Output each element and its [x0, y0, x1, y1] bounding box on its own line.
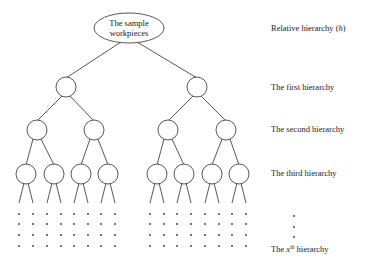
continuation-dot: [245, 234, 247, 236]
continuation-dot: [114, 234, 116, 236]
tree-edge: [98, 139, 108, 165]
continuation-dot: [100, 234, 102, 236]
continuation-dot: [190, 245, 192, 247]
third-hierarchy-node: [174, 164, 194, 184]
continuation-dot: [60, 245, 62, 247]
root-node: The sample workpieces: [94, 13, 164, 43]
continuation-dot: [204, 213, 206, 215]
label-third-hierarchy: The third hierarchy: [271, 168, 337, 178]
tree-edge: [168, 96, 193, 121]
continuation-dot: [73, 234, 75, 236]
continuation-dot: [60, 213, 62, 215]
continuation-dot: [87, 245, 89, 247]
label-first-hierarchy: The first hierarchy: [271, 82, 335, 92]
continuation-dot: [163, 213, 165, 215]
leaf-edge: [83, 183, 88, 203]
tree-edge: [137, 42, 197, 78]
continuation-dot: [100, 223, 102, 225]
second-hierarchy-node: [84, 120, 104, 140]
continuation-dot: [32, 234, 34, 236]
leaf-edge: [28, 183, 33, 203]
continuation-dot: [204, 223, 206, 225]
leaf-edge: [110, 183, 115, 203]
continuation-dot: [73, 213, 75, 215]
continuation-dot: [18, 245, 20, 247]
continuation-dot: [204, 245, 206, 247]
label-xth-hierarchy: The xth hierarchy: [271, 244, 329, 255]
continuation-dot: [114, 245, 116, 247]
continuation-dot: [149, 223, 151, 225]
continuation-dot: [46, 223, 48, 225]
tree-edge: [172, 139, 184, 165]
leaf-edge: [159, 183, 164, 203]
leaf-edge: [232, 183, 237, 203]
third-hierarchy-node: [98, 164, 118, 184]
continuation-dot: [231, 234, 233, 236]
continuation-dot: [218, 223, 220, 225]
leaf-edge: [47, 183, 52, 203]
tree-edge: [201, 96, 226, 121]
continuation-dot: [60, 234, 62, 236]
continuation-dot: [87, 234, 89, 236]
tree-nodes: [16, 77, 249, 184]
leaf-edge: [205, 183, 210, 203]
first-hierarchy-node: [56, 77, 76, 97]
root-label-line2: workpieces: [110, 28, 149, 38]
continuation-dot: [87, 223, 89, 225]
continuation-dot: [149, 213, 151, 215]
continuation-dot: [231, 223, 233, 225]
continuation-dot: [231, 213, 233, 215]
continuation-dot: [32, 245, 34, 247]
leaf-edge: [101, 183, 106, 203]
hierarchy-diagram: The sample workpieces Relative hierarchy…: [0, 0, 365, 262]
continuation-dot: [231, 245, 233, 247]
tree-edges: [26, 42, 239, 165]
tree-edge: [230, 139, 239, 165]
continuation-dot: [149, 234, 151, 236]
continuation-dot: [245, 223, 247, 225]
root-label-line1: The sample: [109, 18, 149, 28]
continuation-dot: [46, 234, 48, 236]
continuation-dot: [73, 223, 75, 225]
tree-edge: [66, 42, 121, 78]
continuation-dot: [46, 213, 48, 215]
continuation-dot: [114, 223, 116, 225]
continuation-dots: [18, 213, 247, 247]
continuation-dot: [218, 213, 220, 215]
continuation-dot: [163, 234, 165, 236]
tree-edge: [157, 139, 164, 165]
continuation-dot: [87, 213, 89, 215]
continuation-dot: [18, 213, 20, 215]
second-hierarchy-node: [158, 120, 178, 140]
second-hierarchy-node: [216, 120, 236, 140]
tree-edge: [26, 139, 33, 165]
continuation-dot: [190, 213, 192, 215]
label-relative-hierarchy: Relative hierarchy (h): [271, 23, 346, 33]
continuation-dot: [218, 245, 220, 247]
tree-edge: [212, 139, 222, 165]
continuation-dot: [176, 234, 178, 236]
tree-edge: [81, 139, 90, 165]
continuation-dot: [46, 245, 48, 247]
leaf-edge: [56, 183, 61, 203]
leaf-edge: [74, 183, 79, 203]
leaf-edge: [177, 183, 182, 203]
continuation-dot: [100, 245, 102, 247]
third-hierarchy-node: [202, 164, 222, 184]
continuation-dot: [218, 234, 220, 236]
continuation-dot: [60, 223, 62, 225]
third-hierarchy-node: [16, 164, 36, 184]
second-hierarchy-node: [27, 120, 47, 140]
label-second-hierarchy: The second hierarchy: [271, 124, 345, 134]
third-hierarchy-node: [147, 164, 167, 184]
continuation-dot: [176, 245, 178, 247]
continuation-dot: [190, 223, 192, 225]
continuation-dot: [190, 234, 192, 236]
vertical-ellipsis-dot: [293, 226, 295, 228]
continuation-dot: [100, 213, 102, 215]
continuation-dot: [18, 223, 20, 225]
leaf-edge: [214, 183, 219, 203]
third-hierarchy-node: [44, 164, 64, 184]
leaf-edge: [19, 183, 24, 203]
continuation-dot: [204, 234, 206, 236]
